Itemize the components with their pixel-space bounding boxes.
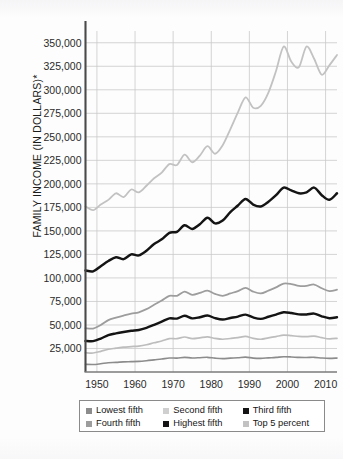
legend-label: Second fifth — [173, 406, 222, 415]
chart-legend: Lowest fifthSecond fifthThird fifthFourt… — [79, 400, 325, 432]
y-tick-label: 150,000 — [20, 225, 82, 237]
legend-swatch-icon — [86, 408, 92, 414]
legend-label: Top 5 percent — [253, 419, 309, 428]
chart-figure: FAMILY INCOME (IN DOLLARS)* 25,00050,000… — [0, 0, 343, 459]
y-tick-label: 350,000 — [20, 37, 82, 49]
legend-item[interactable]: Fourth fifth — [86, 419, 163, 428]
legend-item[interactable]: Lowest fifth — [86, 406, 163, 415]
y-tick-label: 325,000 — [20, 60, 82, 72]
legend-swatch-icon — [243, 421, 249, 427]
plot-area-wrapper: FAMILY INCOME (IN DOLLARS)* 25,00050,000… — [0, 0, 343, 459]
y-tick-label: 275,000 — [20, 107, 82, 119]
y-tick-label: 200,000 — [20, 178, 82, 190]
y-tick-label: 250,000 — [20, 131, 82, 143]
legend-item[interactable]: Second fifth — [163, 406, 242, 415]
y-tick-label: 25,000 — [20, 342, 82, 354]
legend-label: Fourth fifth — [96, 419, 140, 428]
legend-swatch-icon — [163, 408, 169, 414]
legend-row: Fourth fifthHighest fifthTop 5 percent — [86, 417, 320, 430]
legend-label: Third fifth — [253, 406, 292, 415]
legend-swatch-icon — [163, 421, 169, 427]
y-tick-label: 175,000 — [20, 201, 82, 213]
legend-row: Lowest fifthSecond fifthThird fifth — [86, 404, 320, 417]
legend-item[interactable]: Highest fifth — [163, 419, 242, 428]
legend-swatch-icon — [86, 421, 92, 427]
x-tick-label: 2010 — [303, 378, 343, 390]
y-tick-label: 300,000 — [20, 84, 82, 96]
y-tick-label: 125,000 — [20, 248, 82, 260]
legend-item[interactable]: Third fifth — [243, 406, 320, 415]
legend-label: Lowest fifth — [96, 406, 143, 415]
legend-swatch-icon — [243, 408, 249, 414]
legend-label: Highest fifth — [173, 419, 222, 428]
y-tick-label: 225,000 — [20, 154, 82, 166]
y-tick-label: 100,000 — [20, 272, 82, 284]
legend-item[interactable]: Top 5 percent — [243, 419, 320, 428]
y-tick-label: 50,000 — [20, 319, 82, 331]
y-tick-label: 75,000 — [20, 295, 82, 307]
